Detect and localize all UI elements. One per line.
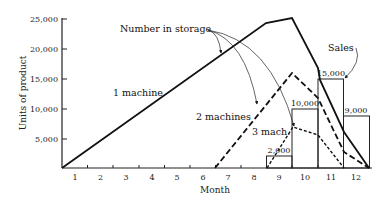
storage-chart: 25,000 20,000 15,000 10,000 5,000 1 2 3 … xyxy=(0,0,389,203)
sales-label-15000: 15,000 xyxy=(317,69,345,78)
x-tick-11: 11 xyxy=(326,173,336,182)
y-tick-25000: 25,000 xyxy=(30,15,58,24)
x-tick-2: 2 xyxy=(98,173,103,182)
y-tick-10000: 10,000 xyxy=(30,105,58,114)
sales-label-10000: 10,000 xyxy=(291,99,319,108)
arrow-to-2-machines xyxy=(208,30,257,104)
y-tick-labels: 25,000 20,000 15,000 10,000 5,000 xyxy=(30,15,58,144)
x-tick-1: 1 xyxy=(72,173,77,182)
x-tick-3: 3 xyxy=(123,173,128,182)
x-tick-8: 8 xyxy=(251,173,256,182)
annotation-number-in-storage: Number in storage xyxy=(120,23,212,34)
series-1-machine xyxy=(62,18,369,168)
x-axis-title: Month xyxy=(200,185,230,195)
x-tick-4: 4 xyxy=(149,173,154,182)
annotation-2-machines: 2 machines xyxy=(196,111,251,122)
x-tick-12: 12 xyxy=(351,173,361,182)
x-tick-labels: 1 2 3 4 5 6 7 8 9 10 11 12 xyxy=(72,173,361,182)
sales-bar-month-10 xyxy=(292,109,318,168)
x-tick-10: 10 xyxy=(300,173,310,182)
y-axis-title: Units of product xyxy=(18,55,28,130)
annotation-1-machine: 1 machine xyxy=(113,87,163,98)
x-tick-7: 7 xyxy=(225,173,230,182)
y-tick-5000: 5,000 xyxy=(35,135,58,144)
annotation-3-mach: 3 mach. xyxy=(252,126,290,137)
x-tick-9: 9 xyxy=(276,173,281,182)
sales-bar-month-12 xyxy=(344,116,370,168)
y-tick-15000: 15,000 xyxy=(30,75,58,84)
x-tick-5: 5 xyxy=(174,173,179,182)
y-tick-20000: 20,000 xyxy=(30,45,58,54)
sales-label-2000: 2,000 xyxy=(268,146,291,155)
sales-label-9000: 9,000 xyxy=(345,106,368,115)
x-tick-6: 6 xyxy=(200,173,205,182)
annotation-sales: Sales xyxy=(328,42,354,53)
